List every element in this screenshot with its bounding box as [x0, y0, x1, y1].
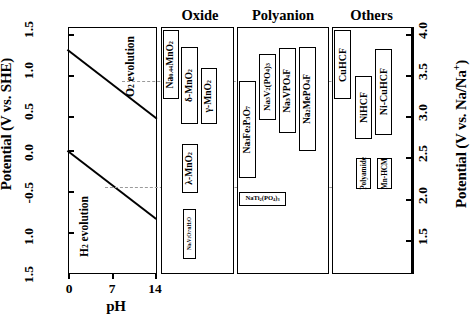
left-tick-3: 0.5: [22, 103, 36, 124]
left-tick-4: 0.0: [22, 144, 36, 165]
bar-delta-mno2[interactable]: δ-MnO2: [181, 47, 198, 124]
left-tick-mark-4: [68, 150, 74, 152]
x-tick-1: 0: [63, 281, 75, 297]
right-axis-spine: [412, 27, 414, 274]
right-tick-mark-4: [406, 157, 412, 159]
bar-na3fe2p3o7[interactable]: Na3Fe2P3O7: [239, 81, 256, 178]
right-tick-mark-2: [406, 75, 412, 77]
left-tick-6: 1.0: [22, 228, 36, 249]
x-tick-2: 7: [106, 281, 118, 297]
h2-evolution-label: H2 evolution: [78, 196, 90, 259]
right-tick-2: 3.5: [416, 63, 430, 84]
right-tick-mark-6: [406, 240, 412, 242]
right-axis-title: Potential (V vs. Na/Na+): [451, 60, 473, 212]
left-tick-mark-6: [68, 232, 74, 234]
x-axis-title: pH: [86, 298, 146, 315]
right-tick-mark-5: [406, 199, 412, 201]
others-panel-heading: Others: [331, 7, 412, 24]
x-tick-mark-3: [155, 274, 157, 279]
bar-na044mno2[interactable]: Na0.44MnO2: [163, 30, 179, 99]
x-tick-mark-2: [112, 274, 114, 279]
right-tick-mark-3: [406, 116, 412, 118]
bar-mn-hcm[interactable]: Mn-HCM: [377, 158, 392, 189]
right-tick-mark-1: [406, 34, 412, 36]
bar-naxv2o5-nh2o[interactable]: NaxV2O5·nH2O: [183, 209, 196, 259]
right-tick-1: 4.0: [416, 22, 430, 43]
right-tick-4: 2.5: [416, 145, 430, 166]
left-tick-1: 1.5: [22, 21, 36, 42]
bar-ni-cuhcf[interactable]: Ni-CuHCF: [375, 49, 392, 135]
left-tick-7: 1.5: [22, 266, 36, 287]
left-tick-mark-3: [68, 116, 74, 118]
bar-na3v2po43[interactable]: Na3V2(PO4)3: [259, 54, 276, 120]
x-tick-mark-1: [68, 274, 70, 279]
bar-nihcf[interactable]: NiHCF: [355, 76, 372, 139]
right-axis-title-text: Potential (V vs. Na/Na+): [451, 60, 470, 208]
right-tick-6: 1.5: [416, 228, 430, 249]
left-tick-5: -0.5: [22, 182, 36, 207]
polyanion-panel-heading: Polyanion: [236, 7, 330, 24]
bar-cuhcf[interactable]: CuHCF: [334, 30, 351, 99]
bar-nati2po43[interactable]: NaTi2(PO4)3: [239, 192, 286, 206]
left-tick-mark-2: [68, 75, 74, 77]
left-axis-title: Potential (V vs. SHE): [0, 58, 20, 194]
o2-evolution-label: O2 evolution: [124, 36, 136, 99]
right-tick-3: 3.0: [416, 104, 430, 125]
bar-polyamide[interactable]: Polyamide: [356, 158, 371, 189]
left-tick-mark-5: [68, 191, 74, 193]
left-axis-title-text: Potential (V vs. SHE): [0, 58, 15, 190]
bar-na3vpo4f[interactable]: Na3VPO4F: [279, 48, 296, 133]
left-tick-mark-1: [68, 34, 74, 36]
bar-lambda-mno2[interactable]: λ-MnO2: [182, 144, 198, 193]
left-tick-2: 1.0: [22, 62, 36, 83]
bar-gamma-mno2[interactable]: γ-MnO2: [201, 68, 217, 124]
right-tick-5: 2.0: [416, 187, 430, 208]
x-tick-3: 14: [146, 281, 164, 297]
bar-na2mepo4f[interactable]: Na2MePO4F: [299, 47, 316, 151]
oxide-panel-heading: Oxide: [160, 7, 240, 24]
